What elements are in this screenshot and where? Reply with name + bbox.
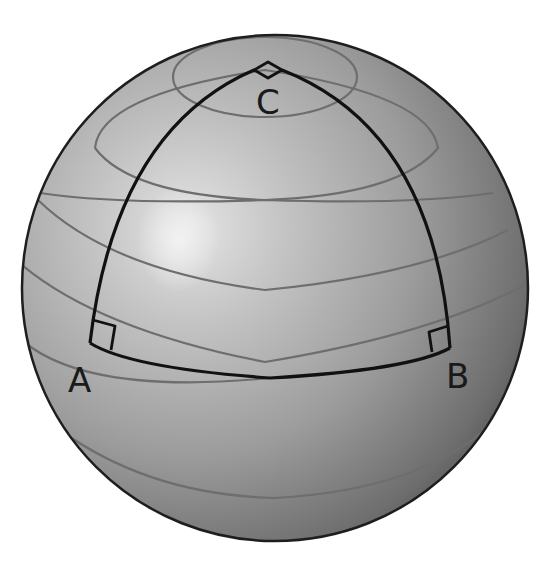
- sphere-diagram: C A B: [0, 0, 543, 577]
- vertex-label-c: C: [256, 82, 280, 122]
- vertex-label-a: A: [68, 360, 91, 400]
- sphere-highlight: [136, 188, 220, 292]
- vertex-label-b: B: [446, 356, 469, 396]
